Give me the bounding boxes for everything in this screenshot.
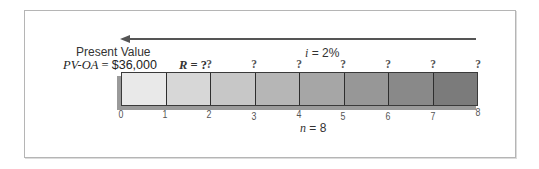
tick-label-0: 0: [117, 108, 125, 120]
tick-label-2: 2: [205, 108, 213, 120]
payment-label: R = ?: [179, 58, 207, 73]
payment-equals: =: [187, 58, 200, 72]
periods-value: = 8: [306, 121, 326, 135]
payment-mark-5: ?: [338, 58, 348, 70]
periods-label: n = 8: [300, 121, 326, 136]
period-cell-8: [434, 73, 478, 105]
interest-value: = 2%: [308, 46, 339, 60]
tick-label-4: 4: [295, 108, 303, 120]
period-cell-7: [389, 73, 434, 105]
present-value-label: Present Value: [76, 45, 151, 59]
period-cell-6: [345, 73, 390, 105]
tick-label-5: 5: [339, 110, 347, 122]
interest-rate-label: i = 2%: [305, 46, 339, 61]
period-cell-1: [122, 73, 167, 105]
payment-mark-8: ?: [473, 58, 483, 70]
tick-label-8: 8: [474, 106, 482, 118]
present-value-formula: PV-OA = $36,000: [63, 58, 157, 73]
payment-mark-2: ?: [204, 58, 214, 70]
period-cell-3: [211, 73, 256, 105]
pv-amount: $36,000: [112, 58, 157, 72]
pv-oa-variable: PV-OA: [63, 58, 98, 72]
pv-equals: =: [98, 58, 111, 72]
tick-label-7: 7: [429, 110, 437, 122]
payment-mark-6: ?: [383, 58, 393, 70]
period-cell-5: [300, 73, 345, 105]
tick-label-6: 6: [384, 110, 392, 122]
payment-mark-7: ?: [428, 58, 438, 70]
tick-label-1: 1: [161, 108, 169, 120]
payment-mark-4: ?: [294, 58, 304, 70]
period-cell-2: [167, 73, 212, 105]
timeline-bar: [121, 72, 478, 106]
discount-arrow-line: [128, 38, 476, 40]
payment-mark-3: ?: [249, 58, 259, 70]
tick-label-3: 3: [250, 110, 258, 122]
period-cell-4: [256, 73, 301, 105]
